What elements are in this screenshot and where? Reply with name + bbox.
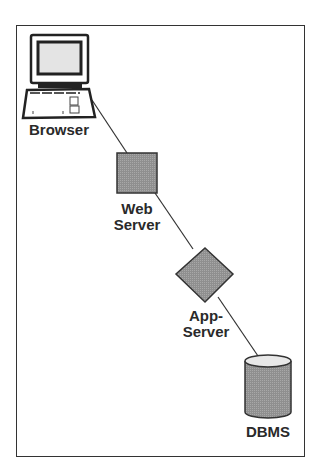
app-server-node [176, 248, 233, 302]
computer-icon [23, 35, 95, 118]
web-server-label-line1: Web [106, 201, 168, 217]
dbms-label: DBMS [240, 424, 296, 440]
architecture-diagram [0, 0, 323, 473]
app-server-label-line2: Server [175, 324, 237, 340]
app-server-label: App- Server [175, 308, 237, 340]
web-server-node [117, 153, 157, 193]
web-server-label: Web Server [106, 201, 168, 233]
web-server-label-line2: Server [106, 217, 168, 233]
dbms-node [245, 355, 291, 418]
browser-label: Browser [26, 122, 92, 138]
app-server-label-line1: App- [175, 308, 237, 324]
